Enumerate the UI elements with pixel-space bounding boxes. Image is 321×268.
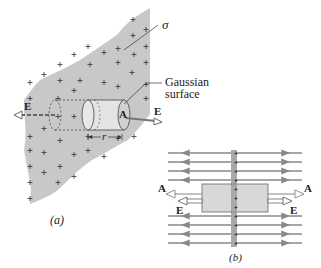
- field-left-label-b: E: [176, 205, 183, 216]
- area-left-label-b: A: [158, 183, 166, 194]
- radius-label: r: [102, 131, 106, 142]
- caption-b: (b): [229, 252, 242, 263]
- gaussian-label-line2: surface: [165, 88, 200, 100]
- field-right-label-a: E: [154, 106, 161, 117]
- area-right-label-b: A: [304, 183, 312, 194]
- field-right-label-b: E: [290, 205, 297, 216]
- sigma-label: σ: [162, 18, 168, 31]
- area-label-a: A: [119, 109, 127, 120]
- figure-a-diagram: [0, 0, 321, 268]
- field-left-label-a: E: [24, 101, 31, 112]
- caption-a: (a): [50, 214, 64, 226]
